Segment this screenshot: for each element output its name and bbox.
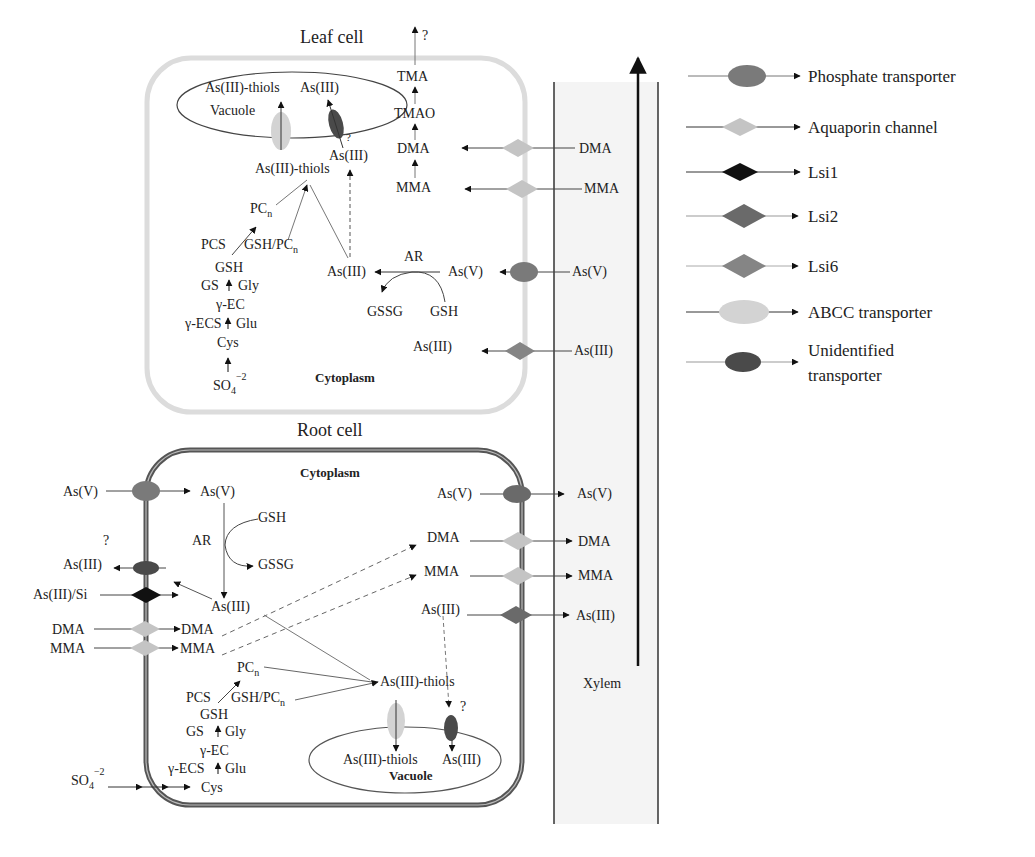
legend-item-phosphate: Phosphate transporter bbox=[688, 65, 956, 87]
root-phosphate-transporter-right bbox=[503, 485, 531, 503]
leaf-gs: GS bbox=[201, 278, 219, 293]
leaf-lsi6 bbox=[505, 342, 535, 360]
root-pcs: PCS bbox=[186, 690, 211, 705]
root-inner-as5: As(V) bbox=[200, 484, 235, 500]
leaf-vac-as3: As(III) bbox=[300, 80, 339, 96]
arsenic-transport-diagram: Xylem Leaf cell As(III)-thiols As(III) V… bbox=[0, 0, 1035, 857]
root-gsh2: GSH bbox=[200, 707, 228, 722]
leaf-as3-center: As(III) bbox=[327, 264, 366, 280]
root-inner-mma: MMA bbox=[180, 641, 216, 656]
root-gssg: GSSG bbox=[258, 557, 294, 572]
unidentified-transporter-icon bbox=[725, 352, 761, 372]
leaf-aquaporin-mma bbox=[506, 180, 538, 198]
abcc-transporter-icon bbox=[719, 300, 769, 324]
lsi6-icon bbox=[722, 254, 766, 278]
root-aquaporin-dma-left bbox=[130, 621, 160, 637]
legend-label: Lsi2 bbox=[808, 207, 838, 226]
leaf-thiols: As(III)-thiols bbox=[255, 161, 330, 177]
legend-item-lsi2: Lsi2 bbox=[686, 204, 838, 228]
leaf-gsh: GSH bbox=[215, 260, 243, 275]
legend-item-lsi1: Lsi1 bbox=[686, 163, 838, 182]
leaf-gsh-gssg-curve bbox=[382, 272, 445, 302]
leaf-gec: γ-EC bbox=[215, 297, 245, 312]
legend-label: Aquaporin channel bbox=[808, 118, 938, 137]
legend-label: Phosphate transporter bbox=[808, 67, 956, 86]
root-gec: γ-EC bbox=[199, 743, 229, 758]
root-unidentified-transporter-vac bbox=[444, 715, 458, 741]
root-left-as5: As(V) bbox=[63, 484, 98, 500]
legend-item-aquaporin: Aquaporin channel bbox=[686, 118, 938, 137]
root-left-as3si: As(III)/Si bbox=[33, 587, 88, 603]
root-inner-as3: As(III) bbox=[211, 599, 250, 615]
leaf-unknown-mark: ? bbox=[346, 131, 351, 143]
leaf-as3-under-vacuole: As(III) bbox=[329, 148, 368, 164]
leaf-pcn: PCn bbox=[250, 201, 272, 219]
legend-label: Lsi1 bbox=[808, 163, 838, 182]
legend-label: ABCC transporter bbox=[808, 303, 933, 322]
leaf-xylem-dma: DMA bbox=[579, 141, 613, 156]
xylem: Xylem bbox=[554, 58, 658, 824]
lsi1-icon bbox=[722, 163, 758, 181]
leaf-pcn-line bbox=[276, 180, 307, 205]
root-aquaporin-mma-left bbox=[130, 640, 160, 656]
leaf-cell: Leaf cell As(III)-thiols As(III) Vacuole… bbox=[147, 27, 620, 412]
root-gsh-pcn: GSH/PCn bbox=[231, 690, 285, 708]
leaf-xylem-mma: MMA bbox=[584, 181, 620, 196]
legend: Phosphate transporter Aquaporin channel … bbox=[686, 65, 956, 385]
root-gly: Gly bbox=[225, 724, 246, 739]
root-xylem-dma: DMA bbox=[578, 534, 612, 549]
leaf-gsh2: GSH bbox=[430, 304, 458, 319]
root-mma-dashed-arrow bbox=[222, 575, 416, 655]
root-unknown-mark: ? bbox=[103, 533, 109, 548]
root-right-mma: MMA bbox=[424, 564, 460, 579]
leaf-cys: Cys bbox=[217, 335, 239, 350]
legend-label-line2: transporter bbox=[808, 366, 882, 385]
leaf-mma: MMA bbox=[396, 180, 432, 195]
aquaporin-channel-icon bbox=[722, 118, 758, 136]
leaf-as5-in: As(V) bbox=[448, 264, 483, 280]
legend-item-abcc: ABCC transporter bbox=[686, 300, 933, 324]
leaf-phosphate-transporter bbox=[510, 262, 538, 282]
root-gs: GS bbox=[186, 724, 204, 739]
root-phosphate-transporter-left bbox=[132, 481, 160, 501]
root-aquaporin-mma-right bbox=[502, 567, 534, 585]
legend-label-line1: Unidentified bbox=[808, 341, 894, 360]
phosphate-transporter-icon bbox=[728, 65, 766, 87]
root-lsi2 bbox=[500, 606, 532, 624]
root-cell: Root cell Cytoplasm As(V) As(V) ? As(III… bbox=[33, 420, 615, 805]
root-gsh: GSH bbox=[258, 510, 286, 525]
leaf-aquaporin-dma bbox=[502, 139, 534, 157]
legend-item-unidentified: Unidentified transporter bbox=[686, 341, 894, 385]
leaf-xylem-as3: As(III) bbox=[574, 343, 613, 359]
root-gsh-pcn-line bbox=[295, 682, 378, 700]
root-as3-dashed-down bbox=[443, 616, 449, 707]
root-right-dma: DMA bbox=[427, 530, 461, 545]
legend-item-lsi6: Lsi6 bbox=[686, 254, 838, 278]
root-cys: Cys bbox=[201, 780, 223, 795]
root-xylem-as5: As(V) bbox=[577, 486, 612, 502]
leaf-tma: TMA bbox=[397, 69, 429, 84]
leaf-as3-in: As(III) bbox=[413, 339, 452, 355]
leaf-cell-title: Leaf cell bbox=[300, 27, 363, 47]
leaf-vacuole-label: Vacuole bbox=[210, 103, 255, 118]
root-lsi1 bbox=[131, 587, 161, 603]
root-gsh-gssg-curve bbox=[225, 519, 258, 566]
leaf-glu: Glu bbox=[236, 316, 257, 331]
root-right-as5: As(V) bbox=[437, 486, 472, 502]
xylem-label: Xylem bbox=[583, 676, 621, 691]
root-xylem-as3: As(III) bbox=[576, 608, 615, 624]
root-vac-as3: As(III) bbox=[442, 752, 481, 768]
root-aquaporin-dma-right bbox=[502, 532, 534, 550]
leaf-cytoplasm-label: Cytoplasm bbox=[315, 370, 375, 385]
legend-label: Lsi6 bbox=[808, 257, 838, 276]
root-cell-title: Root cell bbox=[297, 420, 363, 440]
root-vac-thiols: As(III)-thiols bbox=[343, 752, 418, 768]
leaf-pcs: PCS bbox=[201, 237, 226, 252]
leaf-gsh-pcn: GSH/PCn bbox=[244, 237, 298, 255]
leaf-gecs: γ-ECS bbox=[184, 316, 222, 331]
root-glu: Glu bbox=[225, 761, 246, 776]
leaf-dma: DMA bbox=[397, 141, 431, 156]
root-as3-back-arrow bbox=[174, 582, 212, 599]
leaf-ar: AR bbox=[404, 249, 424, 264]
root-pcn-line bbox=[264, 667, 372, 682]
